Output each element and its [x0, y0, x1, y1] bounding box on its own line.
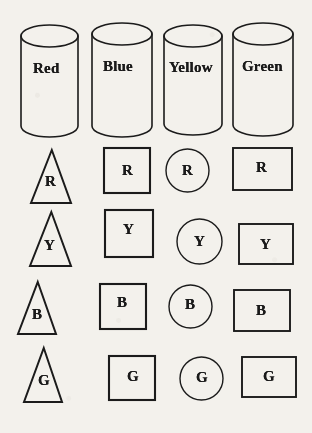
cylinder-top-ellipse [164, 25, 222, 47]
shape-letter-b-square: B [117, 295, 127, 310]
cylinder-top-ellipse [92, 23, 152, 45]
cylinder-blue [89, 20, 155, 140]
shape-letter-r-triangle: R [45, 174, 56, 189]
figure-canvas: RedBlueYellowGreenRRRRYYYYBBBBGGGG [0, 0, 312, 433]
shape-letter-y-triangle: Y [44, 238, 55, 253]
cylinder-green [230, 20, 296, 139]
shape-letter-r-circle: R [182, 163, 193, 178]
cylinder-label-blue: Blue [103, 59, 133, 74]
shape-letter-b-rectangle: B [256, 303, 266, 318]
cylinder-body [92, 34, 152, 137]
cylinder-label-yellow: Yellow [169, 60, 213, 75]
shape-letter-g-square: G [127, 369, 139, 384]
shape-letter-g-rectangle: G [263, 369, 275, 384]
cylinder-label-red: Red [33, 61, 59, 76]
cylinder-body [233, 34, 293, 136]
shape-letter-g-circle: G [196, 370, 208, 385]
shape-letter-g-triangle: G [38, 373, 50, 388]
shape-letter-y-circle: Y [194, 234, 205, 249]
shape-letter-y-square: Y [123, 222, 134, 237]
shape-letter-r-rectangle: R [256, 160, 267, 175]
color-shape-matching-figure: RedBlueYellowGreenRRRRYYYYBBBBGGGG [0, 0, 312, 433]
cylinder-yellow [161, 22, 225, 138]
shape-letter-y-rectangle: Y [260, 237, 271, 252]
cylinder-body [164, 36, 222, 135]
cylinder-label-green: Green [242, 59, 283, 74]
cylinder-body [21, 36, 78, 137]
cylinder-red [18, 22, 81, 140]
cylinder-top-ellipse [233, 23, 293, 45]
cylinder-top-ellipse [21, 25, 78, 47]
shape-letter-r-square: R [122, 163, 133, 178]
shape-letter-b-circle: B [185, 297, 195, 312]
shape-letter-b-triangle: B [32, 307, 42, 322]
